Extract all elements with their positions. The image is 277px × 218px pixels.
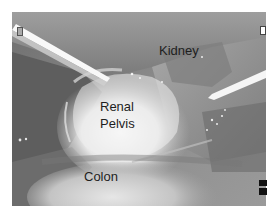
kidney-label: Kidney [159,44,199,58]
top-right-indicator-icon [260,26,266,35]
renal-pelvis-label-line1: Renal [100,99,134,114]
colon-label: Colon [84,170,118,184]
surgical-photo [12,12,266,206]
photo-illustration [12,12,266,206]
renal-pelvis-label-line2: Pelvis [100,116,135,131]
black-square-indicator-icon [259,188,267,195]
renal-pelvis-label: Renal Pelvis [100,98,135,132]
black-square-indicator-icon [259,180,267,186]
top-left-indicator-icon [17,27,23,36]
